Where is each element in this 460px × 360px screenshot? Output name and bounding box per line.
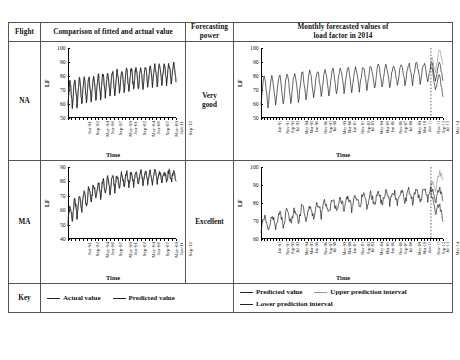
cell-na-fitted-chart: LF5060708090100Jan-91Sep-92May-94Jan-96S… xyxy=(41,42,186,161)
series-line xyxy=(261,187,443,233)
forecast-comparison-table: Flight Comparison of fitted and actual v… xyxy=(8,22,453,313)
series-canvas xyxy=(42,42,185,160)
x-axis-tick-label: Sep-12 xyxy=(188,242,193,256)
row-flight-ma: MA xyxy=(9,161,41,284)
figure-page: Flight Comparison of fitted and actual v… xyxy=(0,0,460,360)
header-forecast-line1: Monthly forecasted values of xyxy=(297,23,388,31)
header-power-line2: power xyxy=(200,32,220,40)
power-na-line2: good xyxy=(202,101,217,109)
legend-item-label: Actual value xyxy=(63,294,101,302)
cell-ma-forecast-chart: LF60708090100Jan-91Nov-91Sep-92Jul-93May… xyxy=(234,161,453,284)
header-forecasting-power: Forecasting power xyxy=(186,23,234,42)
legend-item: Predicted value xyxy=(113,294,175,302)
row-flight-na: NA xyxy=(9,42,41,161)
legend-item: Lower prediction interval xyxy=(240,300,333,308)
legend-item-label: Predicted value xyxy=(129,294,175,302)
legend-swatch-icon xyxy=(240,292,253,293)
table-key-row: Key Actual valuePredicted value Predicte… xyxy=(9,284,453,313)
series-line xyxy=(261,62,443,108)
table-row: NA LF5060708090100Jan-91Sep-92May-94Jan-… xyxy=(9,42,453,161)
row-power-ma: Excellent xyxy=(186,161,234,284)
power-na-line1: Very xyxy=(202,92,217,100)
chart-ma-forecast: LF60708090100Jan-91Nov-91Sep-92Jul-93May… xyxy=(235,161,452,283)
key-label: Key xyxy=(9,284,41,313)
chart-na-forecast: LF5060708090100Jan-91Nov-91Sep-92Jul-93M… xyxy=(235,42,452,160)
series-line xyxy=(68,62,176,109)
legend-item-label: Predicted value xyxy=(256,288,302,296)
legend-swatch-icon xyxy=(314,292,327,293)
table-row: MA LF405060708090Jan-91Sep-92May-94Jan-9… xyxy=(9,161,453,284)
header-flight: Flight xyxy=(9,23,41,42)
series-line xyxy=(68,169,176,226)
legend-swatch-icon xyxy=(240,304,253,305)
series-line xyxy=(68,169,176,227)
series-line xyxy=(68,63,176,108)
header-power-line1: Forecasting xyxy=(191,23,228,31)
x-axis-tick-label: May-14 xyxy=(455,242,460,255)
legend-left: Actual valuePredicted value xyxy=(41,284,234,313)
chart-ma-fitted: LF405060708090Jan-91Sep-92May-94Jan-96Se… xyxy=(42,161,185,283)
legend-item: Predicted value xyxy=(240,288,302,296)
cell-na-forecast-chart: LF5060708090100Jan-91Nov-91Sep-92Jul-93M… xyxy=(234,42,453,161)
power-ma-line1: Excellent xyxy=(195,218,223,226)
chart-na-fitted: LF5060708090100Jan-91Sep-92May-94Jan-96S… xyxy=(42,42,185,160)
series-canvas xyxy=(235,161,452,283)
x-axis-tick-label: May-14 xyxy=(455,121,460,134)
cell-ma-fitted-chart: LF405060708090Jan-91Sep-92May-94Jan-96Se… xyxy=(41,161,186,284)
series-line xyxy=(430,190,443,222)
header-fitted: Comparison of fitted and actual value xyxy=(41,23,186,42)
header-forecast-line2: load factor in 2014 xyxy=(313,32,372,40)
legend-item-label: Upper prediction interval xyxy=(330,288,406,296)
legend-item: Actual value xyxy=(47,294,101,302)
row-power-na: Very good xyxy=(186,42,234,161)
header-monthly-forecast: Monthly forecasted values of load factor… xyxy=(234,23,453,42)
legend-right: Predicted valueUpper prediction interval… xyxy=(234,284,453,313)
x-axis-tick-label: Sep-12 xyxy=(188,121,193,135)
legend-item-label: Lower prediction interval xyxy=(256,300,333,308)
table-header-row: Flight Comparison of fitted and actual v… xyxy=(9,23,453,42)
legend-swatch-icon xyxy=(47,298,60,299)
legend-swatch-icon xyxy=(113,298,126,299)
series-line xyxy=(430,170,443,191)
series-canvas xyxy=(235,42,452,160)
series-canvas xyxy=(42,161,185,283)
legend-item: Upper prediction interval xyxy=(314,288,406,296)
